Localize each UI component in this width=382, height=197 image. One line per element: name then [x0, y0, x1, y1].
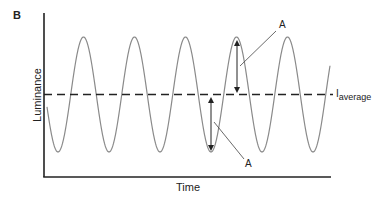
x-axis-label: Time — [176, 181, 200, 193]
panel-label: B — [13, 9, 21, 21]
plot-area — [0, 0, 382, 197]
y-axis-label: Luminance — [31, 68, 43, 122]
amplitude-label-upper: A — [279, 19, 286, 30]
average-label-subscript: average — [339, 92, 372, 102]
average-label: Iaverage — [336, 88, 371, 102]
leader-line-lower — [214, 122, 244, 159]
leader-line-upper — [240, 31, 276, 66]
amplitude-label-lower: A — [245, 158, 252, 169]
luminance-figure: B Luminance Time A A Iaverage — [0, 0, 382, 197]
